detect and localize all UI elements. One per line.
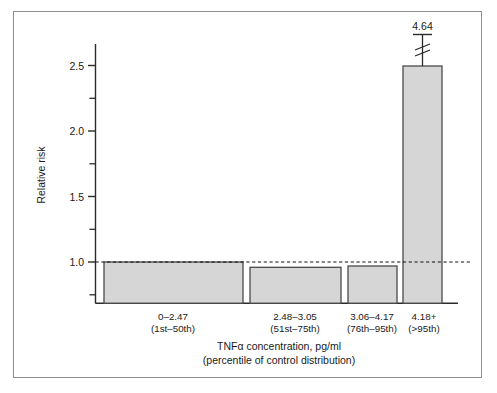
y-tick-label-2.5: 2.5: [69, 60, 84, 72]
value-label-4.64: 4.64: [412, 20, 433, 32]
x-category-sublabel-1: (51st–75th): [270, 323, 320, 334]
y-axis-title: Relative risk: [35, 146, 47, 204]
y-tick-label-1.0: 1.0: [69, 256, 84, 268]
x-category-label-0: 0–2.47: [158, 311, 188, 322]
x-axis-title-line2: (percentile of control distribution): [203, 354, 355, 366]
figure-container: 2.5 2.0 1.5 1.0 Relative risk 4.64 0–2.4…: [0, 0, 497, 393]
x-category-label-3: 4.18+: [412, 311, 437, 322]
bar-chart-plot: 2.5 2.0 1.5 1.0 Relative risk 4.64 0–2.4…: [0, 0, 497, 393]
x-category-label-2: 3.06–4.17: [350, 311, 394, 322]
x-category-label-1: 2.48–3.05: [273, 311, 317, 322]
bar-3.06-4.17: [348, 266, 397, 303]
axis-break-marker: [413, 34, 432, 66]
x-category-sublabel-2: (76th–95th): [347, 323, 397, 334]
bar-0-2.47: [104, 262, 243, 303]
x-category-sublabel-3: (>95th): [408, 323, 439, 334]
x-axis-title: TNFα concentration, pg/ml: [217, 340, 341, 352]
bar-2.48-3.05: [250, 267, 341, 303]
y-tick-label-1.5: 1.5: [69, 191, 84, 203]
x-category-sublabel-0: (1st–50th): [151, 323, 195, 334]
y-tick-label-2.0: 2.0: [69, 125, 84, 137]
bar-4.18-plus: [403, 66, 442, 303]
